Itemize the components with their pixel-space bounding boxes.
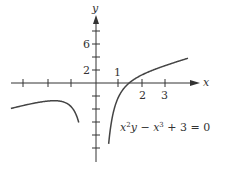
x-tick-label-3: 3 — [161, 89, 168, 102]
graph-plot: x y 1 2 3 2 6 x2y − x3 + 3 = 0 — [0, 0, 225, 175]
equation-annotation: x2y − x3 + 3 = 0 — [120, 121, 210, 134]
x-axis-arrow-icon — [190, 80, 200, 86]
y-tick-label-2: 2 — [83, 64, 90, 77]
x-tick-label-1: 1 — [114, 66, 121, 79]
curve-left-branch — [11, 101, 79, 123]
y-axis-label: y — [91, 2, 99, 15]
y-axis-arrow-icon — [93, 15, 99, 24]
y-tick-label-6: 6 — [83, 38, 90, 51]
x-axis-label: x — [203, 76, 210, 89]
x-tick-label-2: 2 — [139, 89, 146, 102]
